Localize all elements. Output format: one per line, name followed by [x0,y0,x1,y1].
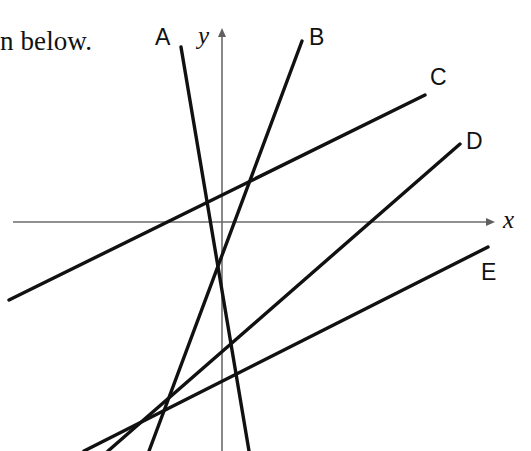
plot-line-d [108,144,460,451]
y-axis-label: y [198,22,209,50]
figure-canvas: n below. x y ABCDE [0,0,531,451]
plot-line-e [84,247,488,451]
line-label-d: D [466,128,483,155]
plot-line-a [181,47,249,451]
caption-text: n below. [0,26,92,57]
line-label-b: B [309,24,325,51]
line-label-c: C [430,64,447,91]
coordinate-plane-figure [0,0,531,451]
plotted-lines-group [9,41,488,451]
x-axis-label: x [503,206,514,234]
line-label-e: E [481,259,497,286]
plot-line-b [149,41,302,451]
line-label-a: A [155,24,171,51]
